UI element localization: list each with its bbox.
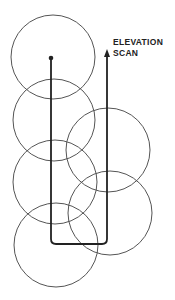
beam-circle-2 (13, 79, 95, 161)
elevation-scan-diagram: ELEVATION SCAN (0, 0, 175, 300)
beam-circle-6 (14, 203, 98, 287)
beam-circle-4 (13, 140, 97, 224)
beam-circle-5 (68, 171, 152, 255)
scan-arrowhead-icon (104, 49, 110, 57)
scan-path (51, 56, 107, 244)
beam-circle-3 (66, 108, 150, 192)
elevation-label: ELEVATION (113, 37, 163, 47)
scan-label: SCAN (113, 48, 138, 58)
